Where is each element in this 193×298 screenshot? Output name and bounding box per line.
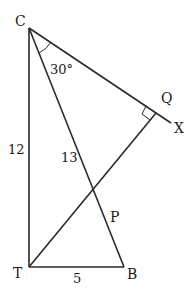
side-label-CB: 13 xyxy=(61,150,78,165)
point-label-P: P xyxy=(110,209,119,225)
angle-arc-C xyxy=(39,42,51,53)
side-label-CT: 12 xyxy=(8,142,25,157)
geometry-diagram: C T B P Q X 30° 12 13 5 xyxy=(0,0,193,298)
side-label-TB: 5 xyxy=(73,271,81,286)
point-label-Q: Q xyxy=(161,90,172,106)
point-label-T: T xyxy=(13,265,23,281)
point-label-C: C xyxy=(15,13,26,29)
point-label-X: X xyxy=(174,120,184,136)
angle-label-C: 30° xyxy=(50,62,73,77)
segment-TQ xyxy=(29,113,156,267)
segment-CB xyxy=(29,28,124,267)
point-label-B: B xyxy=(127,266,137,282)
